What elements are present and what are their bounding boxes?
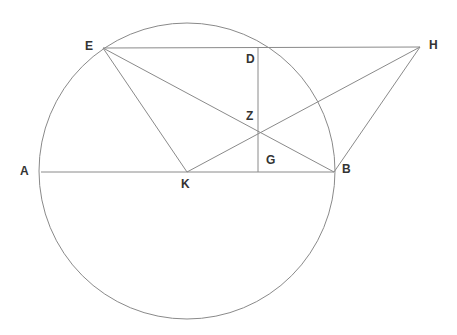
point-label-e: E [85,40,93,52]
point-label-k: K [181,178,190,190]
point-label-b: B [342,163,351,175]
segment-e-h [103,47,420,48]
segment-e-k [103,48,187,172]
point-label-g: G [266,154,275,166]
segment-b-h [334,47,420,172]
point-label-d: D [246,53,255,65]
segment-k-h [187,47,420,172]
point-label-z: Z [246,110,253,122]
geometry-canvas [0,0,457,335]
segment-e-b [103,48,334,172]
geometry-diagram: A E D H Z G K B [0,0,457,335]
point-label-a: A [20,165,29,177]
main-circle [39,23,335,319]
segment-group [41,47,420,172]
point-label-h: H [429,39,438,51]
